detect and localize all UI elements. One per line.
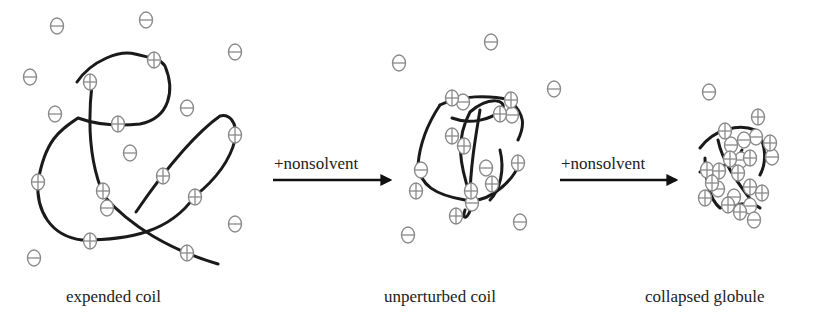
- positive-charge-icon: [148, 52, 161, 68]
- negative-charge-icon: [703, 84, 716, 100]
- positive-charge-icon: [181, 245, 194, 261]
- positive-charge-icon: [494, 106, 507, 122]
- positive-charge-icon: [229, 127, 242, 143]
- negative-charge-icon: [140, 12, 153, 28]
- negative-charge-icon: [49, 106, 62, 122]
- positive-charge-icon: [97, 183, 110, 199]
- positive-charge-icon: [756, 185, 769, 201]
- positive-charge-icon: [706, 175, 719, 191]
- counterion-group: [24, 12, 779, 266]
- positive-charge-icon: [512, 155, 525, 171]
- positive-charge-icon: [719, 123, 732, 139]
- positive-charge-icon: [410, 183, 423, 199]
- negative-charge-icon: [514, 214, 527, 230]
- arrow-label-nonsolvent-1: +nonsolvent: [274, 154, 358, 174]
- positive-charge-icon: [699, 190, 712, 206]
- negative-charge-icon: [229, 44, 242, 60]
- negative-charge-icon: [750, 129, 763, 145]
- negative-charge-icon: [24, 69, 37, 85]
- negative-charge-icon: [766, 149, 779, 165]
- polymer-chain: [90, 84, 218, 264]
- positive-charge-icon: [732, 165, 745, 181]
- positive-charge-icon: [465, 183, 478, 199]
- positive-charge-icon: [734, 204, 747, 220]
- positive-charge-icon: [84, 74, 97, 90]
- negative-charge-icon: [101, 200, 114, 216]
- polymer-chain: [38, 53, 236, 240]
- negative-charge-icon: [402, 227, 415, 243]
- positive-charge-icon: [724, 151, 737, 167]
- positive-charge-icon: [446, 128, 459, 144]
- positive-charge-icon: [157, 168, 170, 184]
- negative-charge-icon: [506, 107, 519, 123]
- negative-charge-icon: [485, 34, 498, 50]
- positive-charge-icon: [505, 92, 518, 108]
- negative-charge-icon: [480, 160, 493, 176]
- positive-charge-icon: [112, 116, 125, 132]
- positive-charge-icon: [744, 150, 757, 166]
- positive-charge-icon: [458, 138, 471, 154]
- negative-charge-icon: [748, 212, 761, 228]
- stage-label-expended-coil: expended coil: [66, 287, 161, 307]
- arrow-label-nonsolvent-2: +nonsolvent: [561, 154, 645, 174]
- negative-charge-icon: [229, 216, 242, 232]
- positive-charge-icon: [752, 109, 765, 125]
- stage-label-collapsed-globule: collapsed globule: [645, 287, 764, 307]
- negative-charge-icon: [51, 18, 64, 34]
- negative-charge-icon: [28, 250, 41, 266]
- positive-charge-icon: [764, 135, 777, 151]
- positive-charge-icon: [744, 179, 757, 195]
- negative-charge-icon: [181, 100, 194, 116]
- positive-charge-icon: [446, 90, 459, 106]
- positive-charge-icon: [189, 189, 202, 205]
- negative-charge-icon: [548, 81, 561, 97]
- diagram-canvas: [0, 0, 815, 322]
- stage-label-unperturbed-coil: unperturbed coil: [384, 287, 496, 307]
- positive-charge-icon: [722, 197, 735, 213]
- positive-charge-icon: [450, 208, 463, 224]
- positive-charge-icon: [486, 176, 499, 192]
- negative-charge-icon: [393, 55, 406, 71]
- negative-charge-icon: [738, 132, 751, 148]
- positive-charge-icon: [84, 233, 97, 249]
- negative-charge-icon: [415, 162, 428, 178]
- negative-charge-icon: [124, 145, 137, 161]
- positive-charge-icon: [32, 174, 45, 190]
